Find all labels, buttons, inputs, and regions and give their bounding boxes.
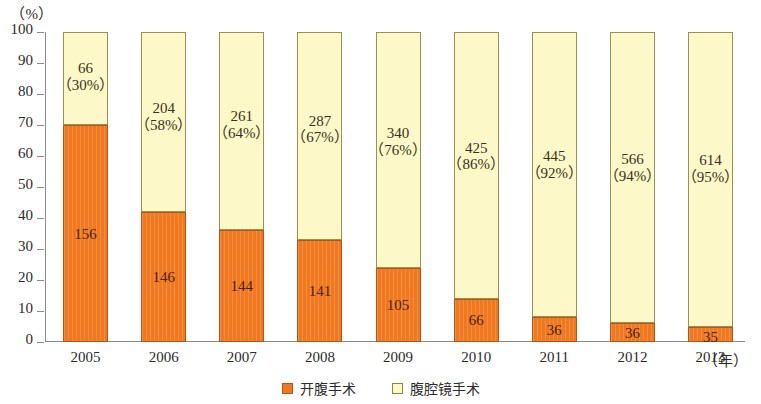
y-axis-tick-label: 10 xyxy=(18,300,33,317)
legend-item[interactable]: 腹腔镜手术 xyxy=(392,378,480,398)
x-axis-label: 2005 xyxy=(63,349,108,366)
bar-segment-laparoscopic[interactable]: 445（92%） xyxy=(532,32,577,317)
x-axis-label: 2008 xyxy=(297,349,342,366)
bar-segment-open-surgery[interactable]: 141 xyxy=(297,240,342,342)
bar-segment-label: 35 xyxy=(703,329,718,346)
bar-group[interactable]: 566（94%）36 xyxy=(610,32,655,342)
x-axis-label: 2009 xyxy=(376,349,421,366)
y-axis-tick-label: 60 xyxy=(18,145,33,162)
bar-segment-open-surgery[interactable]: 36 xyxy=(610,323,655,342)
y-axis-tick-label: 50 xyxy=(18,176,33,193)
bar-segment-open-surgery[interactable]: 66 xyxy=(454,299,499,342)
y-axis-tick-mark xyxy=(37,342,44,343)
bar-group[interactable]: 66（30%）156 xyxy=(63,32,108,342)
y-axis-tick-mark xyxy=(37,249,44,250)
y-axis-unit-label: （%） xyxy=(10,2,54,23)
bar-segment-label: 340（76%） xyxy=(369,125,427,159)
x-axis-label: 2010 xyxy=(454,349,499,366)
x-axis-label: 2011 xyxy=(532,349,577,366)
bar-segment-label: 66（30%） xyxy=(57,60,115,94)
bar-segment-label: 36 xyxy=(547,322,562,339)
chart-legend: 开腹手术腹腔镜手术 xyxy=(0,378,761,398)
bar-segment-laparoscopic[interactable]: 566（94%） xyxy=(610,32,655,323)
orange-swatch-icon xyxy=(282,383,293,394)
bar-segment-laparoscopic[interactable]: 261（64%） xyxy=(219,32,264,230)
bar-segment-label: 105 xyxy=(387,297,410,314)
y-axis-tick-label: 30 xyxy=(18,238,33,255)
y-axis-tick-mark xyxy=(37,187,44,188)
y-axis-tick-mark xyxy=(37,125,44,126)
y-axis-tick-label: 0 xyxy=(26,331,34,348)
bar-segment-laparoscopic[interactable]: 66（30%） xyxy=(63,32,108,125)
y-axis-tick-label: 70 xyxy=(18,114,33,131)
bar-segment-label: 156 xyxy=(74,226,97,243)
y-axis-tick-label: 80 xyxy=(18,83,33,100)
bar-segment-label: 566（94%） xyxy=(604,151,662,185)
bar-segment-label: 141 xyxy=(309,283,332,300)
bar-segment-open-surgery[interactable]: 36 xyxy=(532,317,577,342)
bar-group[interactable]: 261（64%）144 xyxy=(219,32,264,342)
legend-label: 开腹手术 xyxy=(300,378,356,398)
bar-segment-laparoscopic[interactable]: 204（58%） xyxy=(141,32,186,212)
bar-segment-open-surgery[interactable]: 144 xyxy=(219,230,264,342)
bar-segment-label: 36 xyxy=(625,325,640,342)
plot-area: 0102030405060708090100 66（30%）156204（58%… xyxy=(45,32,745,342)
y-axis-line xyxy=(45,32,46,342)
bar-group[interactable]: 340（76%）105 xyxy=(376,32,421,342)
bar-segment-open-surgery[interactable]: 156 xyxy=(63,125,108,342)
x-axis-unit-label: （年） xyxy=(703,349,748,370)
x-axis-label: 2007 xyxy=(219,349,264,366)
yellow-swatch-icon xyxy=(392,383,403,394)
bar-segment-laparoscopic[interactable]: 340（76%） xyxy=(376,32,421,268)
y-axis-tick-mark xyxy=(37,311,44,312)
bar-segment-label: 144 xyxy=(231,278,254,295)
bar-segment-label: 146 xyxy=(152,269,175,286)
y-axis-tick-mark xyxy=(37,280,44,281)
bar-segment-laparoscopic[interactable]: 287（67%） xyxy=(297,32,342,240)
bar-segment-label: 445（92%） xyxy=(526,148,584,182)
y-axis-tick-mark xyxy=(37,94,44,95)
bar-segment-laparoscopic[interactable]: 425（86%） xyxy=(454,32,499,299)
y-axis-tick-label: 40 xyxy=(18,207,33,224)
legend-item[interactable]: 开腹手术 xyxy=(282,378,356,398)
bar-group[interactable]: 445（92%）36 xyxy=(532,32,577,342)
bar-segment-label: 425（86%） xyxy=(447,140,505,174)
bar-segment-label: 66 xyxy=(469,312,484,329)
bar-segment-label: 261（64%） xyxy=(213,108,271,142)
bar-group[interactable]: 204（58%）146 xyxy=(141,32,186,342)
bar-segment-label: 287（67%） xyxy=(291,113,349,147)
y-axis-tick-mark xyxy=(37,156,44,157)
bar-segment-open-surgery[interactable]: 105 xyxy=(376,268,421,342)
bar-segment-open-surgery[interactable]: 146 xyxy=(141,212,186,342)
y-axis-tick-label: 90 xyxy=(18,52,33,69)
y-axis-tick-label: 20 xyxy=(18,269,33,286)
legend-label: 腹腔镜手术 xyxy=(410,378,480,398)
y-axis-tick-label: 100 xyxy=(11,21,34,38)
x-axis-label: 2012 xyxy=(610,349,655,366)
bar-group[interactable]: 614（95%）35 xyxy=(688,32,733,342)
y-axis-tick-mark xyxy=(37,63,44,64)
bar-segment-laparoscopic[interactable]: 614（95%） xyxy=(688,32,733,327)
x-axis-label: 2006 xyxy=(141,349,186,366)
bar-group[interactable]: 287（67%）141 xyxy=(297,32,342,342)
y-axis-tick-mark xyxy=(37,32,44,33)
stacked-bar-chart: （%） 0102030405060708090100 66（30%）156204… xyxy=(0,0,761,404)
bar-segment-label: 614（95%） xyxy=(682,152,740,186)
bar-segment-open-surgery[interactable]: 35 xyxy=(688,327,733,343)
bar-group[interactable]: 425（86%）66 xyxy=(454,32,499,342)
bar-segment-label: 204（58%） xyxy=(135,100,193,134)
y-axis-tick-mark xyxy=(37,218,44,219)
